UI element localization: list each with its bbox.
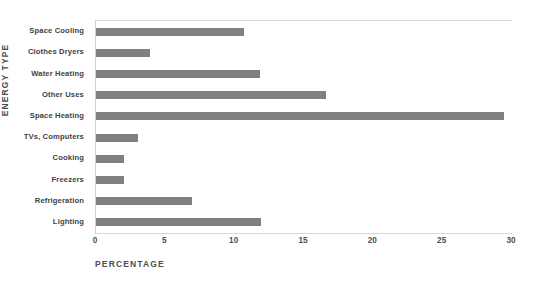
category-label: Space Heating [30, 110, 84, 121]
x-axis-tick-list: 051015202530 [95, 236, 511, 250]
bar-chart: ENERGY TYPE Space CoolingClothes DryersW… [0, 0, 538, 284]
x-axis-tick: 25 [437, 236, 446, 245]
category-label: Lighting [53, 216, 84, 227]
bar [96, 112, 504, 120]
bar [96, 91, 326, 99]
category-label: Other Uses [42, 89, 84, 100]
bar [96, 134, 138, 142]
x-axis-tick: 30 [506, 236, 515, 245]
bar [96, 70, 260, 78]
category-label: Space Cooling [29, 25, 84, 36]
x-axis-tick: 15 [298, 236, 307, 245]
bar [96, 155, 124, 163]
x-axis-tick: 5 [162, 236, 167, 245]
category-label: Freezers [52, 174, 84, 185]
bar [96, 176, 124, 184]
bar [96, 28, 244, 36]
category-label: Refrigeration [35, 195, 84, 206]
category-label: Clothes Dryers [28, 46, 84, 57]
x-axis-tick: 20 [368, 236, 377, 245]
category-label: TVs, Computers [24, 131, 84, 142]
bar [96, 197, 192, 205]
category-label: Water Heating [31, 68, 84, 79]
bar [96, 218, 261, 226]
category-label-list: Space CoolingClothes DryersWater Heating… [0, 20, 90, 232]
x-axis-tick: 10 [229, 236, 238, 245]
bar [96, 49, 150, 57]
category-label: Cooking [53, 152, 84, 163]
x-axis-title: PERCENTAGE [95, 259, 165, 269]
x-axis-tick: 0 [93, 236, 98, 245]
plot-area [95, 20, 512, 234]
